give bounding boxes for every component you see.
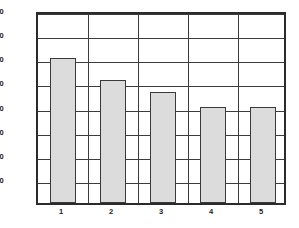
y-axis-tick-labels: 306090120150180210240 [0,12,299,205]
y-tick-label-90: 90 [0,129,4,137]
y-tick-label-180: 180 [0,56,4,64]
y-tick-label-30: 30 [0,177,4,185]
x-tick-label-1: 1 [49,207,73,216]
x-tick-label-2: 2 [99,207,123,216]
x-tick-label-4: 4 [199,207,223,216]
x-tick-label-3: 3 [149,207,173,216]
y-tick-label-120: 120 [0,105,4,113]
bar-chart: 306090120150180210240 12345 [0,0,299,228]
y-tick-label-240: 240 [0,8,4,16]
y-tick-label-60: 60 [0,153,4,161]
y-tick-label-150: 150 [0,80,4,88]
x-tick-label-5: 5 [249,207,273,216]
x-axis-tick-labels: 12345 [36,207,286,221]
y-tick-label-210: 210 [0,32,4,40]
